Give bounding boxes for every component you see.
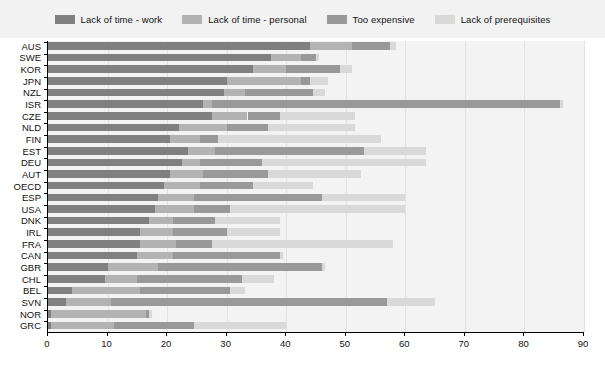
- bar-row[interactable]: [48, 297, 584, 309]
- bar-segment[interactable]: [108, 263, 159, 271]
- bar-segment[interactable]: [182, 159, 200, 167]
- bar-segment[interactable]: [48, 275, 105, 283]
- bar-segment[interactable]: [48, 170, 170, 178]
- bar-segment[interactable]: [227, 228, 281, 236]
- bar-row[interactable]: [48, 122, 584, 134]
- bar-row[interactable]: [48, 227, 584, 239]
- bar-segment[interactable]: [230, 205, 406, 213]
- bar-segment[interactable]: [173, 252, 280, 260]
- bar-segment[interactable]: [48, 287, 72, 295]
- bar-segment[interactable]: [387, 298, 435, 306]
- bar-segment[interactable]: [137, 252, 173, 260]
- bar-segment[interactable]: [170, 170, 203, 178]
- bar-row[interactable]: [48, 53, 584, 65]
- bar-segment[interactable]: [140, 228, 173, 236]
- bar-segment[interactable]: [173, 217, 215, 225]
- bar-segment[interactable]: [310, 77, 328, 85]
- bar-segment[interactable]: [227, 124, 269, 132]
- bar-segment[interactable]: [48, 135, 170, 143]
- bar-segment[interactable]: [48, 65, 253, 73]
- bar-segment[interactable]: [48, 100, 203, 108]
- bar-row[interactable]: [48, 320, 584, 332]
- bar-segment[interactable]: [158, 263, 322, 271]
- bar-segment[interactable]: [48, 147, 188, 155]
- bar-segment[interactable]: [137, 275, 241, 283]
- bar-segment[interactable]: [179, 124, 227, 132]
- bar-segment[interactable]: [212, 112, 248, 120]
- bar-segment[interactable]: [352, 42, 391, 50]
- bar-row[interactable]: [48, 251, 584, 263]
- bar-segment[interactable]: [286, 65, 340, 73]
- bar-row[interactable]: [48, 181, 584, 193]
- bar-row[interactable]: [48, 146, 584, 158]
- bar-segment[interactable]: [51, 322, 114, 330]
- bar-segment[interactable]: [280, 252, 283, 260]
- bar-segment[interactable]: [48, 240, 140, 248]
- bar-segment[interactable]: [268, 170, 360, 178]
- bar-segment[interactable]: [48, 54, 271, 62]
- bar-row[interactable]: [48, 64, 584, 76]
- bar-segment[interactable]: [560, 100, 563, 108]
- bar-segment[interactable]: [218, 135, 382, 143]
- bar-segment[interactable]: [310, 42, 352, 50]
- bar-segment[interactable]: [48, 228, 140, 236]
- bar-segment[interactable]: [340, 65, 352, 73]
- bar-row[interactable]: [48, 111, 584, 123]
- bar-segment[interactable]: [72, 287, 140, 295]
- bar-segment[interactable]: [224, 89, 245, 97]
- bar-row[interactable]: [48, 192, 584, 204]
- bar-segment[interactable]: [155, 205, 194, 213]
- legend-item[interactable]: Too expensive: [327, 14, 415, 25]
- bar-row[interactable]: [48, 157, 584, 169]
- bar-row[interactable]: [48, 204, 584, 216]
- bar-segment[interactable]: [170, 135, 200, 143]
- bar-row[interactable]: [48, 134, 584, 146]
- legend-item[interactable]: Lack of time - work: [55, 14, 163, 25]
- bar-segment[interactable]: [111, 298, 388, 306]
- bar-row[interactable]: [48, 88, 584, 100]
- bar-segment[interactable]: [253, 65, 286, 73]
- bar-segment[interactable]: [227, 77, 301, 85]
- bar-segment[interactable]: [271, 54, 301, 62]
- bar-segment[interactable]: [173, 228, 227, 236]
- bar-row[interactable]: [48, 239, 584, 251]
- bar-segment[interactable]: [149, 310, 152, 318]
- bar-row[interactable]: [48, 274, 584, 286]
- bar-segment[interactable]: [48, 217, 149, 225]
- bar-segment[interactable]: [215, 147, 364, 155]
- bar-segment[interactable]: [194, 194, 322, 202]
- bar-segment[interactable]: [48, 205, 155, 213]
- bar-segment[interactable]: [188, 147, 215, 155]
- legend-item[interactable]: Lack of time - personal: [182, 14, 306, 25]
- bar-segment[interactable]: [268, 124, 354, 132]
- bar-segment[interactable]: [280, 112, 354, 120]
- bar-segment[interactable]: [230, 287, 245, 295]
- bar-segment[interactable]: [313, 89, 325, 97]
- bar-segment[interactable]: [48, 124, 179, 132]
- bar-segment[interactable]: [48, 159, 182, 167]
- bar-segment[interactable]: [48, 182, 164, 190]
- bar-segment[interactable]: [245, 89, 313, 97]
- bar-segment[interactable]: [48, 252, 137, 260]
- bar-segment[interactable]: [48, 263, 108, 271]
- bar-segment[interactable]: [253, 182, 313, 190]
- bar-segment[interactable]: [262, 159, 426, 167]
- bar-row[interactable]: [48, 99, 584, 111]
- bar-segment[interactable]: [215, 217, 281, 225]
- bar-segment[interactable]: [48, 77, 227, 85]
- bar-segment[interactable]: [301, 77, 310, 85]
- bar-segment[interactable]: [316, 54, 319, 62]
- bar-segment[interactable]: [48, 42, 310, 50]
- bar-segment[interactable]: [48, 194, 158, 202]
- bar-segment[interactable]: [200, 135, 218, 143]
- bar-segment[interactable]: [48, 89, 224, 97]
- bar-segment[interactable]: [114, 322, 194, 330]
- bar-segment[interactable]: [149, 217, 173, 225]
- bar-segment[interactable]: [51, 310, 146, 318]
- bar-segment[interactable]: [164, 182, 200, 190]
- bar-segment[interactable]: [203, 100, 212, 108]
- bar-segment[interactable]: [48, 112, 212, 120]
- bar-segment[interactable]: [242, 275, 275, 283]
- bar-segment[interactable]: [364, 147, 427, 155]
- bar-segment[interactable]: [390, 42, 396, 50]
